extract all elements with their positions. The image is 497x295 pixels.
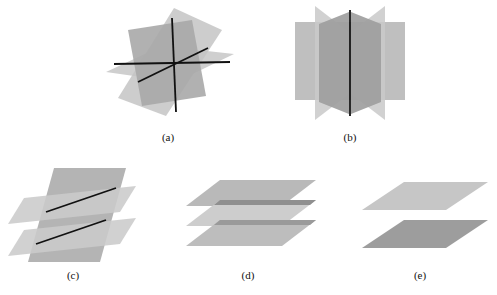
panel-a-diagram [100, 2, 240, 124]
overlap-band-upper [214, 200, 316, 205]
panel-e-diagram [358, 180, 492, 256]
panel-e-label: (e) [400, 269, 440, 281]
panel-d [182, 178, 322, 258]
panel-c-diagram [8, 166, 148, 266]
panel-b-diagram [285, 2, 415, 124]
plane-center-right [351, 12, 381, 114]
panel-d-label: (d) [228, 269, 268, 281]
panel-b [285, 2, 415, 124]
overlap-band-lower [214, 220, 316, 225]
figure-caption-clipped [0, 286, 497, 295]
panel-a-label: (a) [148, 131, 188, 143]
panel-d-diagram [182, 178, 322, 258]
panel-a [100, 2, 240, 124]
panel-e [358, 180, 492, 256]
plane-center-left [319, 12, 349, 114]
plane-lower [362, 220, 488, 248]
panel-b-label: (b) [330, 131, 370, 143]
panel-c-label: (c) [53, 269, 93, 281]
figure-canvas: (a) (b) (c) [0, 0, 497, 295]
panel-c [8, 166, 148, 266]
plane-upper [362, 182, 488, 210]
